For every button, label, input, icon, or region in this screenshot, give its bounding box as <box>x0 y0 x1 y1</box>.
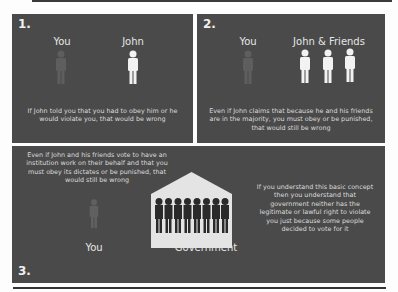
person-icon-friend <box>343 48 357 82</box>
person-icon-you <box>241 50 255 84</box>
panel-number: 1. <box>18 17 31 31</box>
panel-number: 2. <box>203 17 216 31</box>
panel-2-caption: Even if John claims that because he and … <box>209 107 373 132</box>
you-label: You <box>228 36 268 47</box>
government-building-icon <box>151 172 232 248</box>
panel-3-right-caption: If you understand this basic concept the… <box>256 183 374 233</box>
top-divider <box>32 0 392 2</box>
panel-1: 1. You John If John told you that you ha… <box>12 14 193 143</box>
you-label: You <box>42 36 82 47</box>
panel-3-left-caption: Even if John and his friends vote to hav… <box>26 151 168 185</box>
panel-number: 3. <box>18 264 31 278</box>
panel-2: 2. You John & Friends Even if John claim… <box>197 14 385 143</box>
panel-1-caption: If John told you that you had to obey hi… <box>20 107 185 124</box>
person-icon-john <box>126 50 140 84</box>
john-friends-label: John & Friends <box>289 36 369 47</box>
john-label: John <box>113 36 153 47</box>
person-icon-you <box>54 50 68 84</box>
person-icon-you <box>88 197 100 230</box>
you-label: You <box>74 242 114 253</box>
person-icon-john <box>298 49 312 83</box>
bottom-divider <box>13 287 386 289</box>
person-icon-friend <box>321 49 335 83</box>
